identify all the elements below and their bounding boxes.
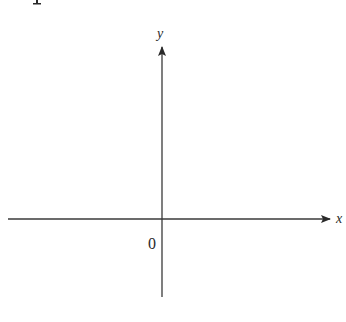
y-axis-label: y — [155, 26, 164, 41]
cropped-text-fragment-serif — [33, 3, 41, 5]
coordinate-plane: x y 0 — [0, 0, 346, 322]
origin-label: 0 — [148, 235, 156, 252]
x-axis-label: x — [335, 211, 343, 226]
